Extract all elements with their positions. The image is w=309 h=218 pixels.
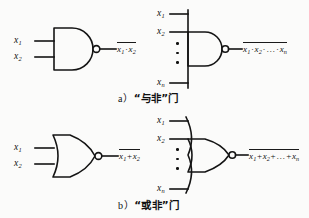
gate-diagram-canvas	[0, 0, 309, 218]
norn-gate-shape	[170, 117, 248, 193]
norn-ellipsis-dots	[176, 148, 179, 177]
nor2-bubble	[95, 153, 102, 160]
nand2-input2-label: x2	[14, 52, 22, 62]
norn-input1-label: x1	[157, 116, 165, 126]
nandn-input1-label: x1	[157, 9, 165, 19]
nandn-bubble	[222, 46, 229, 53]
nor2-gate-shape	[35, 135, 118, 177]
nandn-gate-shape	[170, 10, 242, 88]
nand2-output-expression: x1·x2	[117, 42, 136, 54]
nand2-body	[54, 28, 93, 70]
nandn-output-expression: x1·x2·…·xn	[243, 42, 287, 54]
nandn-body	[188, 32, 222, 66]
caption-b: b）“或非”门	[118, 197, 179, 212]
logic-gate-figure: x1 x2 x1 x2 xn x1 x2 x1 x2 xn x1·x2 x1·x…	[0, 0, 309, 218]
nand2-input1-label: x1	[14, 36, 22, 46]
norn-input2-label: x2	[157, 134, 165, 144]
norn-inputn-label: xn	[157, 184, 165, 194]
norn-output-expression: x1+x2+…+xn	[249, 149, 299, 161]
caption-a: a）“与非”门	[118, 90, 178, 105]
nandn-inputn-label: xn	[157, 78, 165, 88]
nor2-input1-label: x1	[14, 143, 22, 153]
norn-back-brace	[186, 117, 192, 193]
norn-body	[188, 139, 229, 172]
nor2-body	[53, 135, 95, 177]
nandn-input2-label: x2	[157, 27, 165, 37]
nand2-bubble	[93, 46, 100, 53]
nand2-gate-shape	[35, 28, 116, 70]
norn-bubble	[229, 152, 236, 159]
nor2-output-expression: x1+x2	[119, 149, 140, 161]
nandn-ellipsis-dots	[176, 42, 179, 71]
nor2-input2-label: x2	[14, 159, 22, 169]
